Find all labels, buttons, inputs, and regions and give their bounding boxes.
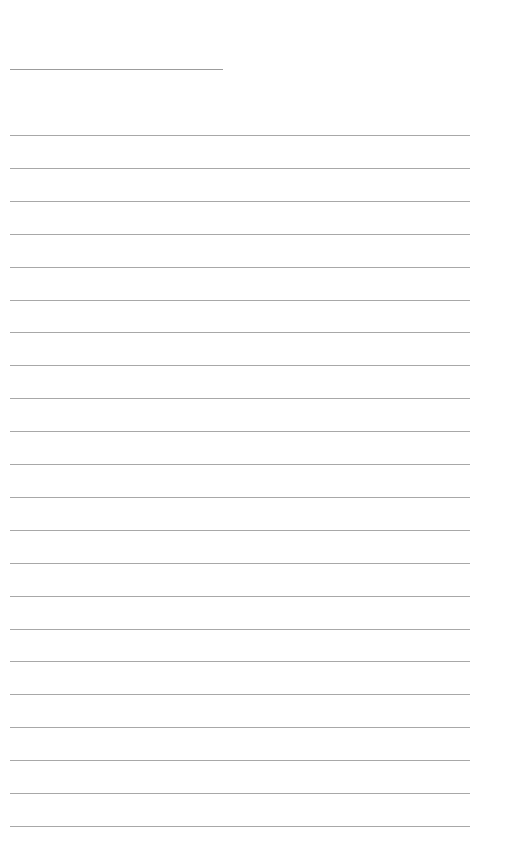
ruled-line (10, 694, 470, 695)
ruled-line (10, 464, 470, 465)
ruled-line (10, 201, 470, 202)
ruled-line (10, 760, 470, 761)
ruled-line (10, 168, 470, 169)
ruled-line (10, 365, 470, 366)
ruled-line (10, 826, 470, 827)
ruled-line (10, 793, 470, 794)
ruled-line (10, 596, 470, 597)
ruled-line (10, 563, 470, 564)
ruled-line (10, 497, 470, 498)
ruled-line (10, 135, 470, 136)
ruled-line (10, 234, 470, 235)
ruled-line (10, 267, 470, 268)
ruled-line (10, 431, 470, 432)
ruled-line (10, 530, 470, 531)
ruled-lines-area (0, 0, 512, 862)
ruled-line (10, 727, 470, 728)
ruled-line (10, 398, 470, 399)
ruled-line (10, 629, 470, 630)
lined-page (0, 0, 512, 862)
ruled-line (10, 332, 470, 333)
ruled-line (10, 661, 470, 662)
ruled-line (10, 300, 470, 301)
